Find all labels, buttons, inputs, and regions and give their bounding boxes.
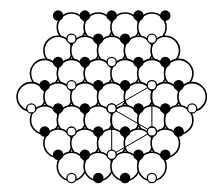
filled-site-circle: [121, 81, 130, 90]
filled-site-circle: [174, 81, 183, 90]
open-site-circle: [67, 127, 76, 136]
filled-site-circle: [80, 104, 89, 113]
filled-site-circle: [54, 11, 63, 20]
filled-site-circle: [94, 127, 103, 136]
open-site-circle: [107, 150, 116, 159]
unit-cell-vertex-circle: [107, 104, 116, 113]
filled-site-circle: [40, 81, 49, 90]
filled-site-circle: [80, 150, 89, 159]
filled-site-circle: [161, 104, 170, 113]
open-site-circle: [67, 81, 76, 90]
unit-cell-vertex-circle: [147, 81, 156, 90]
open-site-circle: [67, 34, 76, 43]
filled-site-circle: [94, 81, 103, 90]
filled-site-circle: [134, 11, 143, 20]
filled-site-circle: [54, 150, 63, 159]
open-site-circle: [107, 57, 116, 66]
filled-site-circle: [161, 150, 170, 159]
filled-site-circle: [107, 11, 116, 20]
filled-site-circle: [161, 57, 170, 66]
filled-site-circle: [40, 127, 49, 136]
filled-site-circle: [80, 57, 89, 66]
lattice-figure: [0, 0, 208, 185]
filled-site-circle: [94, 34, 103, 43]
open-site-circle: [147, 173, 156, 182]
filled-site-circle: [54, 104, 63, 113]
filled-site-circle: [174, 127, 183, 136]
open-site-circle: [188, 104, 197, 113]
filled-site-circle: [94, 173, 103, 182]
filled-site-circle: [54, 57, 63, 66]
unit-cell-vertex-circle: [147, 127, 156, 136]
filled-site-circle: [80, 11, 89, 20]
open-site-circle: [27, 104, 36, 113]
open-site-circle: [67, 173, 76, 182]
filled-site-circle: [121, 34, 130, 43]
filled-site-circle: [121, 173, 130, 182]
filled-site-circle: [134, 104, 143, 113]
hexagonal-lattice-diagram: [0, 0, 208, 185]
filled-site-circle: [121, 127, 130, 136]
filled-site-circle: [134, 150, 143, 159]
filled-site-circle: [161, 11, 170, 20]
filled-site-circle: [134, 57, 143, 66]
open-site-circle: [147, 34, 156, 43]
